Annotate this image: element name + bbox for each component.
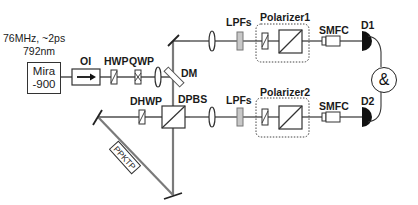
lpfs-bottom-label: LPFs	[226, 95, 252, 106]
top-lens	[209, 31, 215, 51]
smfc-top	[322, 36, 340, 46]
polarizer1-label: Polarizer1	[260, 12, 310, 23]
laser-spec-rate: 76MHz, ~2ps	[3, 33, 65, 44]
lpfs-top-label: LPFs	[226, 17, 252, 28]
laser-spec-wavelength: 792nm	[23, 46, 55, 57]
bottom-lpf	[237, 108, 243, 126]
d1-label: D1	[361, 20, 374, 31]
and-symbol: &	[379, 71, 390, 89]
detector-d1	[362, 31, 372, 51]
bottom-lens	[209, 107, 215, 127]
dm-label: DM	[181, 68, 197, 79]
sagnac-diagonal-beam	[98, 117, 173, 195]
polarizer2-label: Polarizer2	[260, 87, 310, 98]
optical-isolator	[72, 69, 100, 85]
laser-name-line1: Mira	[33, 65, 55, 78]
smfc-top-label: SMFC	[319, 25, 349, 36]
coincidence-counter: &	[371, 67, 397, 93]
oi-label: OI	[80, 56, 91, 67]
dpbs-cube	[162, 106, 185, 128]
hwp-label: HWP	[104, 56, 129, 67]
optical-setup-diagram	[0, 0, 418, 205]
laser-source-box: Mira -900	[27, 62, 61, 94]
laser-name-line2: -900	[32, 78, 55, 91]
polarizer1-group	[256, 24, 309, 62]
polarizer2-group	[256, 98, 309, 137]
dhwp-label: DHWP	[130, 96, 162, 107]
qwp-waveplate	[135, 70, 141, 84]
pump-lens	[155, 67, 161, 87]
dpbs-label: DPBS	[178, 94, 207, 105]
top-lpf	[237, 32, 243, 50]
d2-label: D2	[361, 96, 374, 107]
dhwp-waveplate	[139, 110, 145, 124]
smfc-bottom-label: SMFC	[319, 101, 349, 112]
qwp-label: QWP	[129, 56, 154, 67]
hwp-waveplate	[111, 70, 117, 84]
detector-d2	[362, 107, 372, 127]
smfc-bottom	[322, 112, 340, 122]
